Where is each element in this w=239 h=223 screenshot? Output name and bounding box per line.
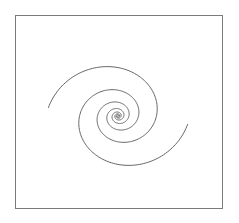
- spiral-arm-2: [48, 67, 157, 143]
- spiral-arm-1: [79, 90, 188, 166]
- spiral-diagram: [0, 0, 239, 223]
